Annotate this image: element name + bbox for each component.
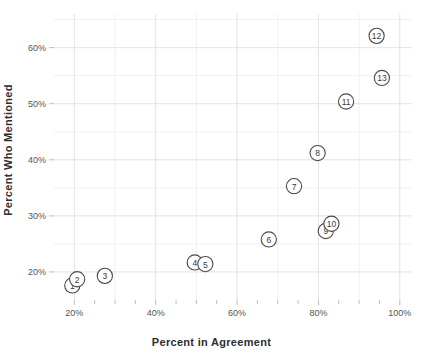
marker-label-2: 2: [75, 275, 80, 285]
marker-label-6: 6: [266, 235, 271, 245]
marker-label-13: 13: [377, 73, 387, 83]
x-tick-label-100%: 100%: [388, 308, 411, 318]
marker-label-11: 11: [342, 97, 351, 107]
data-point-3: 3: [97, 268, 112, 283]
minor-gridlines: [54, 14, 412, 300]
marker-label-12: 12: [372, 31, 382, 41]
x-tick-label-40%: 40%: [147, 308, 165, 318]
marker-label-8: 8: [315, 148, 320, 158]
data-point-2: 2: [70, 272, 85, 287]
data-point-11: 11: [338, 94, 353, 109]
y-axis-title-text: Percent Who Mentioned: [2, 84, 14, 216]
marker-label-5: 5: [203, 260, 208, 270]
data-point-13: 13: [374, 70, 389, 85]
data-point-5: 5: [198, 257, 213, 272]
plot-area: 12345678910111213: [0, 0, 423, 353]
y-axis-title: Percent Who Mentioned: [0, 0, 16, 300]
x-axis-title: Percent in Agreement: [0, 336, 423, 348]
y-tick-label-20%: 20%: [16, 267, 46, 277]
y-tick-label-30%: 30%: [16, 211, 46, 221]
major-gridlines: [54, 14, 412, 300]
x-tick-label-80%: 80%: [309, 308, 327, 318]
y-tick-label-60%: 60%: [16, 43, 46, 53]
data-point-12: 12: [369, 28, 384, 43]
marker-label-4: 4: [192, 258, 197, 268]
y-tick-label-50%: 50%: [16, 99, 46, 109]
data-point-7: 7: [286, 179, 301, 194]
data-point-8: 8: [310, 145, 325, 160]
marker-label-10: 10: [327, 219, 337, 229]
marker-label-3: 3: [102, 271, 107, 281]
x-tick-label-20%: 20%: [65, 308, 83, 318]
data-point-markers: 12345678910111213: [65, 28, 390, 293]
y-tick-label-40%: 40%: [16, 155, 46, 165]
data-point-6: 6: [261, 232, 276, 247]
marker-label-7: 7: [292, 182, 297, 192]
scatter-chart: 12345678910111213 20%40%60%80%100% 20%30…: [0, 0, 423, 353]
axis-tick-marks: [49, 48, 400, 305]
x-tick-label-60%: 60%: [228, 308, 246, 318]
data-point-10: 10: [324, 216, 339, 231]
